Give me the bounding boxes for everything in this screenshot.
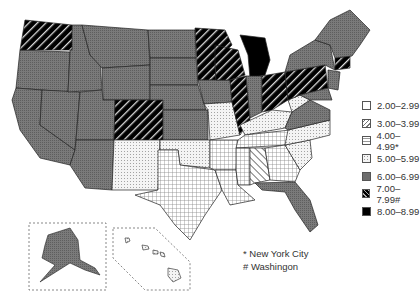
swatch-dark-hatch [362,189,370,198]
state-arkansas [210,140,238,170]
state-oregon [16,50,70,92]
swatch-crosshatch [362,136,371,145]
legend-item: 7.00–7.99# [362,185,420,203]
state-colorado [114,100,163,140]
us-choropleth-map [0,0,420,303]
state-wisconsin [215,45,245,80]
state-new-york [285,40,335,72]
swatch-gray [362,172,371,181]
state-michigan [240,35,270,78]
state-arizona [70,140,114,190]
state-new-jersey [328,70,340,90]
state-south-dakota [150,58,198,85]
swatch-dotted [362,154,371,163]
footnote-nyc: * New York City [243,247,308,260]
footnote-washington: # Washingon [243,260,308,273]
state-north-dakota [148,30,196,58]
hawaii-inset [113,228,190,290]
swatch-diagonal [362,119,371,128]
state-connecticut [335,56,350,70]
swatch-white [362,101,371,110]
legend-item: 4.00–4.99* [362,132,420,150]
state-iowa [198,80,232,104]
state-kansas [163,110,208,140]
legend-item: 8.00–8.99 [362,203,420,221]
swatch-black [362,207,371,216]
state-florida [255,182,318,232]
state-hawaii [125,238,181,282]
state-ohio [262,72,288,112]
state-new-mexico [112,140,160,190]
map-legend: 2.00–2.99 3.00–3.99 4.00–4.99* 5.00–5.99… [362,97,420,220]
legend-item: 2.00–2.99 [362,97,420,115]
state-mississippi [236,148,250,185]
state-wyoming [102,65,150,100]
legend-item: 5.00–5.99 [362,150,420,168]
map-footnotes: * New York City # Washingon [243,247,308,273]
state-washington [20,20,72,50]
state-alaska [40,228,100,282]
